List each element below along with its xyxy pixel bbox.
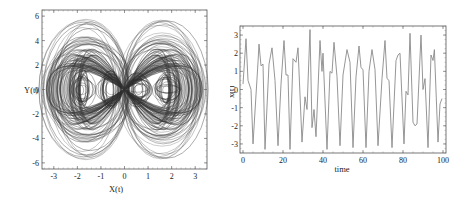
right-x-tick-label: 60 <box>359 156 367 165</box>
right-y-tick-label: 2 <box>234 49 238 58</box>
left-x-tick-label: -1 <box>98 172 105 181</box>
right-y-tick-label: 1 <box>234 67 238 76</box>
right-x-tick-label: 40 <box>319 156 327 165</box>
left-x-tick-label: -2 <box>74 172 81 181</box>
left-x-tick-label: 1 <box>146 172 150 181</box>
right-x-tick-label: 0 <box>241 156 245 165</box>
left-y-tick-label: 4 <box>35 37 39 46</box>
phase-portrait-panel: -3-2-10123-6-4-20246 Y(t) X(t) <box>0 0 230 198</box>
left-x-tick-label: -3 <box>50 172 57 181</box>
left-x-tick-label: 0 <box>123 172 127 181</box>
left-y-tick-label: -4 <box>32 134 39 143</box>
time-series-chart: 020406080100-3-2-10123 x(t) time <box>230 0 463 198</box>
right-x-tick-label: 20 <box>279 156 287 165</box>
right-y-tick-label: -1 <box>231 104 238 113</box>
left-y-tick-label: -6 <box>32 159 39 168</box>
phase-portrait-chart: -3-2-10123-6-4-20246 Y(t) X(t) <box>0 0 230 198</box>
right-y-tick-label: 3 <box>234 31 238 40</box>
attractor-trajectory <box>39 19 208 159</box>
right-y-tick-label: -2 <box>231 122 238 131</box>
right-y-tick-label: -3 <box>231 140 238 149</box>
left-y-tick-label: 6 <box>35 12 39 21</box>
time-series-panel: 020406080100-3-2-10123 x(t) time <box>230 0 463 198</box>
left-x-axis-label: X(t) <box>109 184 123 194</box>
right-x-axis-label: time <box>334 164 349 174</box>
right-x-tick-label: 100 <box>437 156 449 165</box>
left-x-tick-label: 3 <box>193 172 197 181</box>
left-y-tick-label: -2 <box>32 110 39 119</box>
right-y-axis-label: x(t) <box>230 86 236 98</box>
left-x-tick-label: 2 <box>170 172 174 181</box>
right-x-tick-label: 80 <box>399 156 407 165</box>
right-plot-frame <box>240 26 446 153</box>
left-y-axis-label: Y(t) <box>24 85 38 95</box>
left-y-tick-label: 2 <box>35 61 39 70</box>
time-series-line <box>243 30 442 150</box>
